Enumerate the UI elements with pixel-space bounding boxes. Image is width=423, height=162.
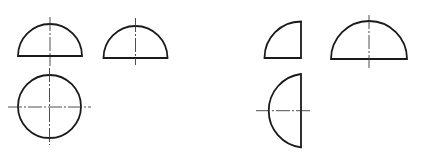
quarter-sphere-views	[256, 15, 407, 147]
hemisphere-views	[8, 17, 168, 145]
drawing-canvas	[0, 0, 423, 162]
quarter-sphere-side-view	[331, 15, 407, 68]
quarter-sphere-front-view	[265, 22, 302, 59]
hemisphere-top-view	[8, 68, 91, 145]
quarter-circle-outline	[265, 22, 302, 59]
hemisphere-side-view	[104, 18, 168, 65]
hemisphere-front-view	[18, 17, 82, 66]
technical-drawing	[0, 0, 423, 162]
quarter-sphere-top-view	[256, 74, 310, 147]
